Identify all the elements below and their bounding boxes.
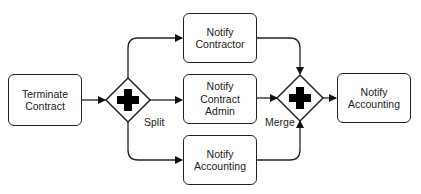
task-label: Notify Contract Admin bbox=[200, 80, 240, 118]
task-notify-contractor[interactable]: Notify Contractor bbox=[183, 13, 257, 63]
split-gateway-label: Split bbox=[144, 116, 164, 128]
task-label: Notify Contractor bbox=[195, 26, 244, 51]
task-label: Terminate Contract bbox=[22, 88, 68, 113]
task-label: Notify Accounting bbox=[194, 148, 246, 173]
task-notify-accounting-final[interactable]: Notify Accounting bbox=[337, 73, 411, 123]
merge-gateway[interactable] bbox=[277, 75, 323, 121]
task-notify-contract-admin[interactable]: Notify Contract Admin bbox=[183, 74, 257, 124]
task-label: Notify Accounting bbox=[348, 86, 400, 111]
task-notify-accounting-branch[interactable]: Notify Accounting bbox=[183, 135, 257, 185]
flow-split-to-contractor bbox=[128, 38, 182, 78]
merge-gateway-label: Merge bbox=[265, 116, 295, 128]
task-terminate-contract[interactable]: Terminate Contract bbox=[8, 74, 82, 126]
flow-contractor-to-merge bbox=[257, 38, 300, 74]
